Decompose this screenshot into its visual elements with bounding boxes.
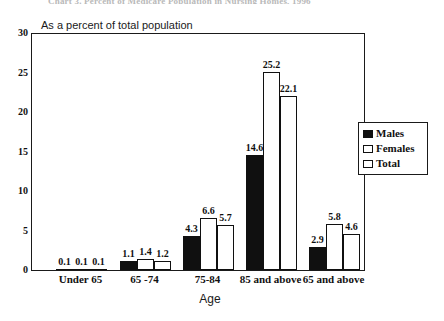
bar-total: [280, 96, 297, 270]
bar-value-label: 5.7: [212, 213, 239, 223]
y-axis-tick-label: 5: [4, 226, 28, 236]
y-axis-tick-label: 20: [4, 107, 28, 117]
x-axis-category-labels: Under 6565 -7475-8485 and above65 and ab…: [31, 274, 365, 288]
x-axis-tick-label: 65 and above: [284, 274, 383, 285]
bar-group: 0.10.10.1: [56, 34, 107, 270]
bar-males: [56, 269, 73, 270]
bar-group: 2.95.84.6: [309, 34, 360, 270]
figure-title: Chart 3. Percent of Medicare Population …: [48, 0, 398, 4]
bar-total: [343, 234, 360, 270]
y-axis-tick-label: 10: [4, 186, 28, 196]
bar-males: [120, 261, 137, 270]
bar-value-label: 4.6: [338, 222, 365, 232]
chart-subtitle: As a percent of total population: [41, 19, 193, 31]
chart-figure: Chart 3. Percent of Medicare Population …: [0, 0, 444, 321]
bar-group: 4.36.65.7: [183, 34, 234, 270]
bar-value-label: 22.1: [275, 84, 302, 94]
bar-value-label: 0.1: [85, 257, 112, 267]
legend-swatch-females-icon: [363, 145, 373, 153]
bar-total: [90, 269, 107, 270]
bar-group: 1.11.41.2: [120, 34, 171, 270]
legend-label-females: Females: [376, 143, 414, 154]
legend-item-females: Females: [363, 141, 424, 156]
legend-item-males: Males: [363, 126, 424, 141]
legend-item-total: Total: [363, 156, 424, 171]
legend-label-total: Total: [376, 158, 400, 169]
bar-females: [73, 269, 90, 270]
bar-value-label: 1.2: [149, 249, 176, 259]
bar-males: [246, 155, 263, 270]
y-axis-tick-label: 30: [4, 28, 28, 38]
x-axis-title: Age: [0, 292, 420, 306]
bar-group: 14.625.222.1: [246, 34, 297, 270]
y-axis: 302520151050: [0, 33, 28, 271]
bar-females: [263, 72, 280, 270]
y-axis-tick-label: 15: [4, 147, 28, 157]
legend-swatch-males-icon: [363, 130, 373, 138]
bar-females: [200, 218, 217, 270]
legend-label-males: Males: [376, 128, 404, 139]
bar-total: [217, 225, 234, 270]
y-axis-tick-label: 25: [4, 68, 28, 78]
bar-value-label: 25.2: [258, 60, 285, 70]
y-axis-tick-label: 0: [4, 265, 28, 275]
chart-legend: Males Females Total: [358, 122, 428, 175]
bar-total: [154, 261, 171, 270]
bars-layer: 0.10.10.11.11.41.24.36.65.714.625.222.12…: [32, 34, 364, 270]
legend-swatch-total-icon: [363, 160, 373, 168]
bar-females: [137, 259, 154, 270]
bar-males: [183, 236, 200, 270]
bar-males: [309, 247, 326, 270]
